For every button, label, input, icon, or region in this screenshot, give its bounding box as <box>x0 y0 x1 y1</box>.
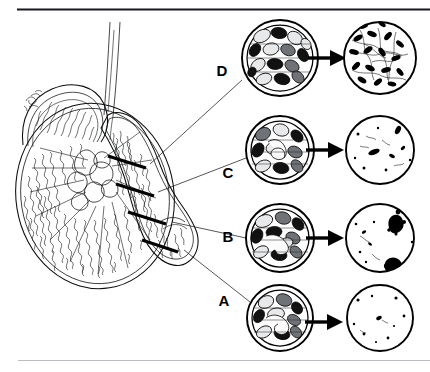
row-label-a: A <box>219 292 230 309</box>
duct-cross-section-b <box>246 204 314 272</box>
row-a: A <box>219 285 413 351</box>
duct-cross-section-d <box>242 20 318 96</box>
figure-root: D <box>0 0 430 372</box>
sperm-smear-a <box>347 285 413 351</box>
row-c: C <box>223 116 414 184</box>
duct-cross-section-c <box>246 116 314 184</box>
leader-line-a <box>184 250 250 302</box>
row-b: B <box>223 204 414 274</box>
illustration-plate: D <box>0 0 430 372</box>
row-d: D <box>217 20 416 96</box>
testis-body <box>2 85 187 300</box>
leader-lines <box>150 80 250 302</box>
leader-line-d <box>150 80 242 164</box>
duct-cross-section-a <box>247 285 313 351</box>
row-label-c: C <box>223 164 234 181</box>
row-label-d: D <box>217 62 228 79</box>
tick-mark-a <box>142 240 178 252</box>
leader-line-b <box>172 222 246 238</box>
sperm-smear-c <box>346 116 414 184</box>
vas-deferens <box>104 22 120 140</box>
sperm-smear-b <box>346 204 414 274</box>
sperm-smear-d <box>344 20 416 94</box>
appendix-testis <box>24 91 42 112</box>
row-label-b: B <box>223 228 234 245</box>
